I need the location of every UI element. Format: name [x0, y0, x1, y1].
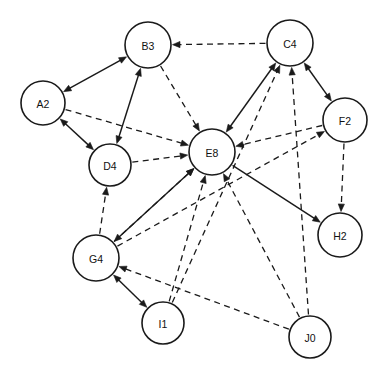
node-f2[interactable]: F2	[323, 98, 367, 142]
edge-f2-e8	[236, 125, 322, 147]
node-circle[interactable]	[142, 302, 184, 344]
node-e8[interactable]: E8	[189, 129, 235, 175]
node-layer: A2B3C4D4E8F2G4H2I1J0	[21, 20, 367, 358]
arrowhead-to-c4	[304, 63, 311, 71]
arrowhead-to-a2	[64, 85, 72, 91]
arrowhead-to-b3	[118, 57, 126, 63]
node-i1[interactable]: I1	[142, 302, 184, 344]
arrowhead-to-e8	[180, 140, 188, 146]
arrowhead-to-b3	[135, 68, 141, 76]
edge-line	[233, 165, 316, 219]
edge-line	[292, 73, 308, 314]
node-circle[interactable]	[289, 316, 331, 358]
edge-f2-h2	[338, 143, 344, 211]
arrowhead-to-d4	[116, 135, 122, 143]
arrowhead-to-c4	[289, 67, 295, 75]
arrowhead-to-c4	[269, 63, 276, 71]
node-h2[interactable]: H2	[318, 213, 362, 257]
edge-line	[241, 125, 322, 144]
arrowhead-to-g4	[119, 266, 127, 272]
edge-line	[161, 66, 197, 126]
node-j0[interactable]: J0	[289, 316, 331, 358]
edge-line	[226, 179, 299, 317]
edge-line	[100, 193, 106, 234]
edge-line	[66, 110, 183, 144]
edge-b3-e8	[161, 66, 200, 131]
edge-b3-d4	[116, 68, 141, 143]
edge-g4-i1	[114, 275, 147, 307]
arrowhead-to-e8	[193, 123, 200, 131]
arrowhead-to-e8	[200, 176, 206, 184]
edge-c4-f2	[304, 63, 331, 101]
arrowhead-to-f2	[316, 131, 324, 137]
node-b3[interactable]: B3	[125, 22, 171, 68]
node-circle[interactable]	[189, 129, 235, 175]
edge-j0-c4	[289, 67, 308, 314]
node-circle[interactable]	[323, 98, 367, 142]
edge-a2-b3	[64, 57, 127, 92]
node-circle[interactable]	[73, 235, 119, 281]
node-c4[interactable]: C4	[267, 20, 313, 66]
edge-line	[68, 60, 121, 89]
edge-j0-e8	[223, 174, 299, 317]
node-circle[interactable]	[125, 22, 171, 68]
edge-c4-b3	[172, 41, 265, 47]
arrowhead-to-b3	[172, 41, 180, 47]
edge-line	[341, 143, 344, 205]
graph-canvas: A2B3C4D4E8F2G4H2I1J0	[0, 0, 386, 378]
edge-line	[178, 43, 265, 44]
node-d4[interactable]: D4	[89, 144, 131, 186]
node-circle[interactable]	[318, 213, 362, 257]
edge-a2-d4	[60, 119, 93, 150]
edge-line	[230, 67, 273, 127]
arrowhead-to-f2	[324, 93, 331, 101]
edge-line	[308, 68, 329, 97]
node-a2[interactable]: A2	[21, 81, 65, 125]
edge-e8-h2	[233, 165, 321, 222]
arrowhead-to-h2	[312, 216, 320, 223]
edge-line	[118, 279, 143, 303]
node-circle[interactable]	[89, 144, 131, 186]
edge-line	[64, 123, 89, 146]
edge-c4-e8	[226, 63, 275, 132]
arrowhead-to-e8	[180, 153, 188, 159]
edge-d4-e8	[132, 153, 187, 162]
node-g4[interactable]: G4	[73, 235, 119, 281]
edge-i1-c4	[172, 65, 280, 302]
edge-line	[169, 181, 204, 301]
node-circle[interactable]	[21, 81, 65, 125]
arrowhead-to-e8	[223, 174, 229, 182]
edge-g4-d4	[100, 187, 109, 234]
edge-line	[172, 70, 277, 302]
graph-diagram: A2B3C4D4E8F2G4H2I1J0	[0, 0, 386, 378]
arrowhead-to-d4	[102, 187, 108, 195]
edge-i1-e8	[169, 176, 206, 302]
node-circle[interactable]	[267, 20, 313, 66]
edge-line	[132, 156, 182, 162]
arrowhead-to-e8	[226, 124, 233, 132]
arrowhead-to-h2	[338, 204, 344, 212]
